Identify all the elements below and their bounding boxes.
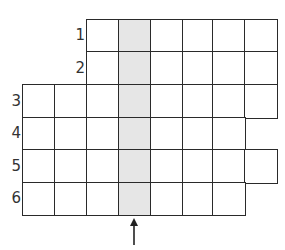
grid-cell: [150, 51, 184, 86]
grid-cell: [86, 84, 120, 119]
grid-cell: [86, 19, 120, 53]
grid-cell: [212, 84, 246, 119]
row-label: 5: [7, 159, 21, 174]
grid-cell: [150, 84, 184, 119]
grid-cell-highlighted: [118, 182, 152, 216]
grid-cell: [244, 19, 278, 53]
grid-cell: [150, 149, 184, 184]
grid-cell: [86, 182, 120, 216]
grid-cell-highlighted: [118, 117, 152, 151]
grid-cell-highlighted: [118, 51, 152, 86]
grid-cell-highlighted: [118, 84, 152, 119]
grid-cell: [212, 51, 246, 86]
grid-cell: [54, 149, 88, 184]
grid-cell: [244, 84, 278, 119]
grid-cell: [182, 182, 214, 216]
grid-cell: [182, 51, 214, 86]
grid-cell: [182, 19, 214, 53]
grid-cell-highlighted: [118, 149, 152, 184]
grid-cell: [86, 51, 120, 86]
grid-cell-highlighted: [118, 19, 152, 53]
grid-cell: [22, 117, 56, 151]
grid-cell: [150, 19, 184, 53]
grid-cell: [244, 149, 278, 184]
row-label: 2: [71, 61, 85, 76]
grid-cell: [182, 117, 214, 151]
grid-cell: [244, 51, 278, 86]
grid-cell: [150, 117, 184, 151]
arrow-up-icon: [128, 218, 140, 246]
grid-cell: [150, 182, 184, 216]
grid-cell: [54, 117, 88, 151]
row-label: 6: [7, 191, 21, 206]
row-label: 4: [7, 126, 21, 141]
grid-cell: [182, 149, 214, 184]
grid-cell: [22, 84, 56, 119]
grid-cell: [212, 149, 246, 184]
grid-cell: [54, 84, 88, 119]
grid-cell: [22, 149, 56, 184]
grid-cell: [86, 117, 120, 151]
row-label: 1: [71, 28, 85, 43]
grid-cell: [212, 19, 246, 53]
grid-cell: [22, 182, 56, 216]
grid-cell: [182, 84, 214, 119]
grid-cell: [86, 149, 120, 184]
grid-cell: [54, 182, 88, 216]
grid-cell: [212, 117, 246, 151]
row-label: 3: [7, 94, 21, 109]
grid-cell: [212, 182, 246, 216]
